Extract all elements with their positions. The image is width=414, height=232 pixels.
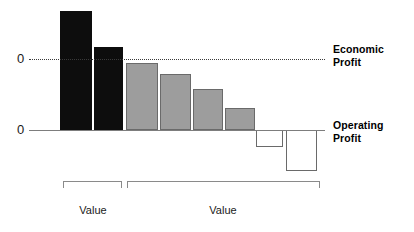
operating-profit-caption-line2: Profit <box>333 132 384 145</box>
bar-value-destroyer-1[interactable] <box>126 63 158 130</box>
bar-value-destroyer-4[interactable] <box>225 108 255 130</box>
group-label-value-creators-line2: Creators <box>47 230 139 232</box>
plot-area: 0 0 Economic Profit Operating Profit Val… <box>0 0 414 232</box>
bar-value-destroyer-5[interactable] <box>256 130 283 147</box>
chart-root: 0 0 Economic Profit Operating Profit Val… <box>0 0 414 232</box>
bracket-value-creators <box>63 181 122 188</box>
group-label-value-destroyers-line2: Destroyers <box>177 230 269 232</box>
operating-profit-caption-line1: Operating <box>333 119 384 132</box>
group-label-value-destroyers: Value Destroyers <box>177 191 269 232</box>
bar-value-destroyer-6[interactable] <box>286 130 317 171</box>
bar-value-destroyer-3[interactable] <box>193 89 223 130</box>
bar-value-destroyer-2[interactable] <box>160 74 191 130</box>
bar-value-creator-1[interactable] <box>60 11 92 130</box>
bracket-value-destroyers <box>127 181 320 188</box>
operating-profit-caption: Operating Profit <box>333 119 384 144</box>
economic-profit-caption: Economic Profit <box>333 43 384 68</box>
operating-profit-axis-line <box>29 130 325 131</box>
economic-profit-caption-line1: Economic <box>333 43 384 56</box>
economic-profit-axis-line <box>29 59 325 60</box>
economic-profit-caption-line2: Profit <box>333 56 384 69</box>
group-label-value-creators: Value Creators <box>47 191 139 232</box>
economic-profit-zero-label: 0 <box>17 52 24 65</box>
group-label-value-destroyers-line1: Value <box>177 204 269 217</box>
operating-profit-zero-label: 0 <box>17 123 24 136</box>
group-label-value-creators-line1: Value <box>47 204 139 217</box>
